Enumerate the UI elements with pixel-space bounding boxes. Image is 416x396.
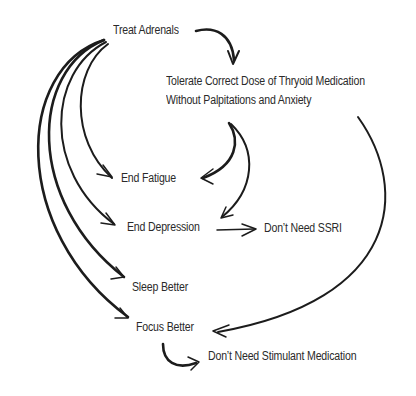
arrow-focus-to-stimulant [163,344,199,370]
node-treat-adrenals: Treat Adrenals [113,21,179,40]
node-sleep-better: Sleep Better [132,278,188,297]
flow-diagram: Treat Adrenals Tolerate Correct Dose of … [0,0,416,396]
arrows-layer [0,0,416,396]
arrow-end-depression-to-ssri [217,224,256,236]
node-end-fatigue: End Fatigue [121,169,176,188]
node-tolerate-line-1: Tolerate Correct Dose of Thryoid Medicat… [166,72,365,91]
arrow-tolerate-to-end-fatigue [201,123,235,184]
node-end-depression: End Depression [127,218,200,237]
node-tolerate-line-2: Without Palpitations and Anxiety [166,91,311,110]
arrow-adrenals-to-end-fatigue [81,44,112,178]
node-focus-better: Focus Better [136,318,194,337]
arrow-adrenals-to-tolerate [196,30,239,64]
node-dont-need-ssri: Don’t Need SSRI [264,219,342,238]
node-dont-need-stimulant: Don’t Need Stimulant Medication [208,347,356,366]
